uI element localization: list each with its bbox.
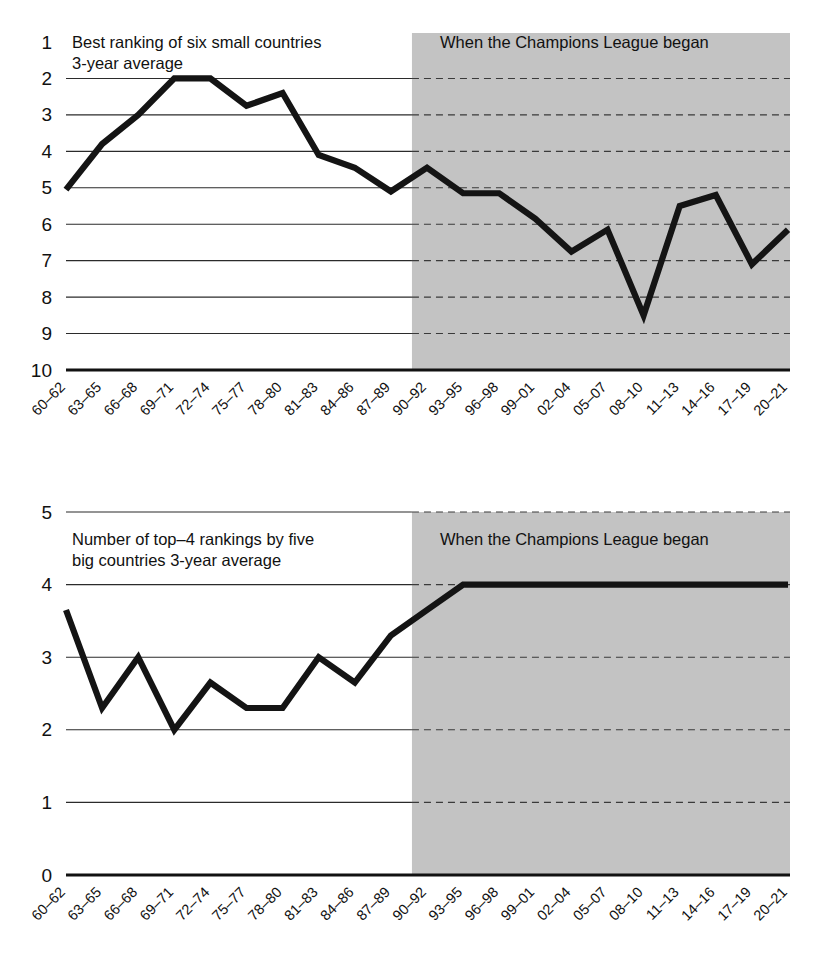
svg-text:84–86: 84–86: [317, 379, 357, 419]
svg-text:17–19: 17–19: [714, 884, 754, 924]
svg-text:72–74: 72–74: [173, 884, 213, 924]
bottom-title-line2: big countries 3-year average: [72, 551, 281, 569]
bottom-y-axis-labels: 012345: [41, 502, 52, 886]
bottom-x-axis-labels: 60–6263–6566–6869–7172–7475–7778–8081–83…: [28, 884, 790, 924]
top-x-axis-labels: 60–6263–6566–6869–7172–7475–7778–8081–83…: [28, 379, 790, 419]
x-tick-label: 63–65: [64, 884, 104, 924]
x-tick-label: 78–80: [245, 379, 285, 419]
x-tick-label: 96–98: [461, 884, 501, 924]
x-tick-label: 05–07: [570, 884, 610, 924]
bottom-shade-annotation-label: When the Champions League began: [440, 530, 709, 548]
y-tick-label: 4: [41, 141, 52, 162]
svg-text:11–13: 11–13: [643, 379, 682, 418]
x-tick-label: 72–74: [173, 379, 213, 419]
x-tick-label: 96–98: [461, 379, 501, 419]
svg-text:08–10: 08–10: [606, 379, 646, 419]
x-tick-label: 66–68: [100, 379, 140, 419]
svg-text:93–95: 93–95: [425, 884, 465, 924]
x-tick-label: 99–01: [498, 884, 538, 924]
x-tick-label: 60–62: [28, 884, 68, 924]
bottom-title-line1: Number of top–4 rankings by five: [72, 530, 314, 548]
svg-text:69–71: 69–71: [137, 379, 177, 419]
svg-text:78–80: 78–80: [245, 379, 285, 419]
top-title-line2: 3-year average: [72, 54, 183, 72]
svg-text:20–21: 20–21: [750, 379, 790, 419]
x-tick-label: 02–04: [534, 379, 574, 419]
top-chart-svg: 12345678910 60–6263–6566–6869–7172–7475–…: [0, 0, 818, 470]
svg-text:93–95: 93–95: [425, 379, 465, 419]
x-tick-label: 87–89: [353, 884, 393, 924]
bottom-chart-svg: 012345 60–6263–6566–6869–7172–7475–7778–…: [0, 470, 818, 971]
svg-text:63–65: 63–65: [64, 379, 104, 419]
svg-text:87–89: 87–89: [353, 884, 393, 924]
x-tick-label: 60–62: [28, 379, 68, 419]
y-tick-label: 1: [41, 32, 52, 53]
top-shaded-region: [412, 33, 790, 370]
svg-text:75–77: 75–77: [209, 379, 249, 419]
y-tick-label: 4: [41, 574, 52, 595]
svg-text:84–86: 84–86: [317, 884, 357, 924]
x-tick-label: 14–16: [678, 379, 718, 419]
x-tick-label: 11–13: [643, 379, 682, 418]
svg-text:11–13: 11–13: [643, 884, 682, 923]
y-tick-label: 5: [41, 177, 52, 198]
svg-text:14–16: 14–16: [678, 884, 718, 924]
y-tick-label: 7: [41, 250, 52, 271]
svg-text:90–92: 90–92: [389, 379, 429, 419]
x-tick-label: 78–80: [245, 884, 285, 924]
x-tick-label: 84–86: [317, 884, 357, 924]
svg-text:08–10: 08–10: [606, 884, 646, 924]
y-tick-label: 3: [41, 104, 52, 125]
top-y-axis-labels: 12345678910: [31, 32, 53, 381]
svg-text:75–77: 75–77: [209, 884, 249, 924]
svg-text:96–98: 96–98: [461, 379, 501, 419]
y-tick-label: 1: [41, 792, 52, 813]
x-tick-label: 20–21: [750, 379, 790, 419]
dual-line-chart-figure: 12345678910 60–6263–6566–6869–7172–7475–…: [0, 0, 818, 971]
y-tick-label: 2: [41, 68, 52, 89]
chart-panel-top: 12345678910 60–6263–6566–6869–7172–7475–…: [0, 0, 818, 470]
svg-text:66–68: 66–68: [100, 379, 140, 419]
x-tick-label: 02–04: [534, 884, 574, 924]
svg-text:60–62: 60–62: [28, 884, 68, 924]
svg-text:96–98: 96–98: [461, 884, 501, 924]
x-tick-label: 17–19: [714, 379, 754, 419]
svg-text:99–01: 99–01: [498, 884, 538, 924]
y-tick-label: 8: [41, 287, 52, 308]
x-tick-label: 90–92: [389, 884, 429, 924]
svg-text:81–83: 81–83: [281, 884, 321, 924]
top-shade-annotation-label: When the Champions League began: [440, 33, 709, 51]
svg-text:05–07: 05–07: [570, 884, 610, 924]
svg-text:72–74: 72–74: [173, 379, 213, 419]
top-title-line1: Best ranking of six small countries: [72, 33, 321, 51]
x-tick-label: 90–92: [389, 379, 429, 419]
x-tick-label: 84–86: [317, 379, 357, 419]
y-tick-label: 0: [41, 865, 52, 886]
y-tick-label: 6: [41, 214, 52, 235]
svg-text:02–04: 02–04: [534, 379, 574, 419]
bottom-shaded-region: [412, 512, 790, 875]
x-tick-label: 75–77: [209, 379, 249, 419]
x-tick-label: 20–21: [750, 884, 790, 924]
y-tick-label: 10: [31, 360, 52, 381]
chart-panel-bottom: 012345 60–6263–6566–6869–7172–7475–7778–…: [0, 470, 818, 971]
x-tick-label: 93–95: [425, 884, 465, 924]
svg-text:14–16: 14–16: [678, 379, 718, 419]
x-tick-label: 05–07: [570, 379, 610, 419]
svg-text:69–71: 69–71: [137, 884, 177, 924]
y-tick-label: 2: [41, 719, 52, 740]
x-tick-label: 69–71: [137, 884, 177, 924]
y-tick-label: 3: [41, 647, 52, 668]
x-tick-label: 81–83: [281, 379, 321, 419]
svg-text:87–89: 87–89: [353, 379, 393, 419]
svg-text:90–92: 90–92: [389, 884, 429, 924]
svg-text:60–62: 60–62: [28, 379, 68, 419]
x-tick-label: 08–10: [606, 884, 646, 924]
x-tick-label: 17–19: [714, 884, 754, 924]
svg-text:20–21: 20–21: [750, 884, 790, 924]
x-tick-label: 08–10: [606, 379, 646, 419]
svg-text:02–04: 02–04: [534, 884, 574, 924]
top-chart-title: Best ranking of six small countries 3-ye…: [72, 33, 321, 72]
x-tick-label: 93–95: [425, 379, 465, 419]
y-tick-label: 9: [41, 323, 52, 344]
